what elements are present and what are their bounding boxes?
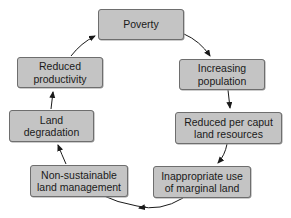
node-label: Increasing population xyxy=(187,62,257,87)
arrow-inappropriate-to-nonsustainable xyxy=(137,198,183,208)
arrow-poverty-to-population xyxy=(184,34,210,56)
node-non-sustainable: Non-sustainable land management xyxy=(30,165,128,197)
arrow-productivity-to-poverty xyxy=(71,36,95,56)
node-label: Reduced per caput land resources xyxy=(179,116,279,141)
node-label: Inappropriate use of marginal land xyxy=(156,170,248,195)
node-label: Reduced productivity xyxy=(25,60,95,85)
node-reduced-land-resources: Reduced per caput land resources xyxy=(175,112,282,144)
node-label: Poverty xyxy=(123,18,159,31)
arrow-nonsustainable-to-degradation xyxy=(58,145,66,164)
node-poverty: Poverty xyxy=(98,9,184,40)
node-label: Land degradation xyxy=(17,114,87,139)
arrow-population-to-resources xyxy=(228,90,230,108)
node-reduced-productivity: Reduced productivity xyxy=(17,57,103,88)
node-label: Non-sustainable land management xyxy=(31,169,127,194)
node-increasing-population: Increasing population xyxy=(179,59,265,90)
arrow-resources-to-inappropriate xyxy=(218,144,227,163)
arrow-degradation-to-productivity xyxy=(51,92,53,109)
node-land-degradation: Land degradation xyxy=(9,110,94,142)
node-inappropriate-use: Inappropriate use of marginal land xyxy=(153,166,251,198)
